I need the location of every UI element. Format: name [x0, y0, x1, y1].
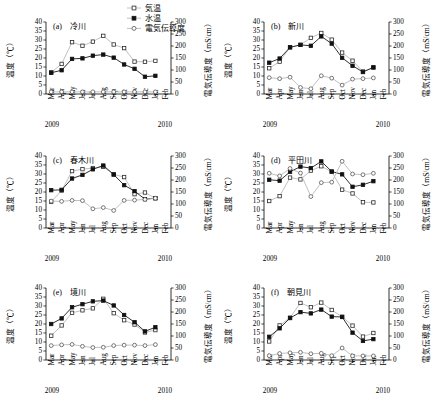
- data-point-water: [143, 330, 146, 333]
- data-point-air: [340, 51, 343, 54]
- data-point-air: [320, 31, 323, 34]
- y-tick-label-right: 50: [393, 78, 401, 86]
- data-point-water: [91, 300, 94, 303]
- data-point-water: [268, 335, 271, 338]
- data-point-air: [91, 307, 94, 310]
- y-tick-label-right: 300: [175, 152, 186, 160]
- y-tick-label-right: 200: [393, 176, 404, 184]
- x-tick-label: Feb: [162, 88, 170, 99]
- x-tick-label: Mar: [266, 87, 274, 100]
- x-tick-label: Oct: [121, 223, 129, 233]
- data-point-water: [278, 327, 281, 330]
- data-point-air: [330, 38, 333, 41]
- x-tick-label: Mar: [48, 353, 56, 366]
- data-point-ec: [299, 171, 303, 175]
- y-tick-label-right: 200: [175, 176, 186, 184]
- data-point-water: [133, 67, 136, 70]
- y-tick-label-left: 10: [35, 338, 43, 346]
- data-point-air: [81, 44, 84, 47]
- y-axis-label-right: 電気伝導度（mS/cm）: [421, 153, 431, 231]
- y-tick-label-right: 300: [393, 18, 404, 26]
- x-tick-label: Jun: [297, 355, 305, 365]
- data-point-ec: [133, 343, 137, 347]
- x-tick-label: Sep: [110, 354, 118, 365]
- series-line-open-square: [51, 299, 155, 336]
- x-year-right: 2010: [376, 121, 391, 129]
- x-tick-label: Jul: [307, 225, 315, 233]
- data-point-ec: [133, 198, 137, 202]
- data-point-ec: [70, 343, 74, 347]
- legend: 気温水温電気伝導度: [125, 2, 285, 36]
- y-tick-label-right: 200: [393, 308, 404, 316]
- y-tick-label-right: 0: [393, 356, 397, 364]
- data-point-ec: [351, 172, 355, 176]
- data-point-water: [154, 326, 157, 329]
- y-tick-label-right: 100: [175, 66, 186, 74]
- data-point-ec: [299, 86, 303, 90]
- y-tick-label-left: 5: [38, 347, 42, 355]
- y-tick-label-right: 50: [175, 212, 183, 220]
- data-point-water: [133, 321, 136, 324]
- y-tick-label-left: 20: [35, 320, 43, 328]
- y-tick-label-left: 25: [35, 179, 43, 187]
- data-point-ec: [319, 351, 323, 355]
- data-point-water: [351, 64, 354, 67]
- data-point-ec: [351, 77, 355, 81]
- data-point-air: [320, 165, 323, 168]
- y-axis-label-right: 電気伝導度（mS/cm）: [421, 19, 431, 97]
- data-point-water: [288, 316, 291, 319]
- data-point-water: [299, 310, 302, 313]
- data-point-ec: [340, 83, 344, 87]
- y-tick-label-right: 0: [175, 356, 179, 364]
- data-point-water: [91, 168, 94, 171]
- y-tick-label-left: 30: [35, 170, 43, 178]
- data-point-water: [372, 337, 375, 340]
- x-tick-label: Oct: [339, 223, 347, 233]
- x-tick-label: Feb: [380, 88, 388, 99]
- data-point-air: [340, 188, 343, 191]
- x-tick-label: Jan: [152, 356, 160, 366]
- data-point-air: [351, 324, 354, 327]
- y-tick-label-right: 0: [393, 90, 397, 98]
- data-point-air: [102, 34, 105, 37]
- legend-label-water: 水温: [145, 13, 161, 23]
- y-tick-label-left: 35: [253, 293, 261, 301]
- y-tick-label-left: 30: [35, 36, 43, 44]
- x-tick-label: Dec: [360, 88, 368, 100]
- data-point-water: [102, 53, 105, 56]
- data-point-water: [288, 46, 291, 49]
- y-tick-label-left: 20: [253, 54, 261, 62]
- legend-marker-air: [132, 6, 136, 10]
- data-point-ec: [278, 174, 282, 178]
- x-tick-label: Aug: [100, 221, 108, 234]
- data-point-air: [81, 167, 84, 170]
- data-point-air: [268, 340, 271, 343]
- data-point-water: [122, 183, 125, 186]
- y-axis-label-left: 温度（℃）: [223, 304, 233, 344]
- y-tick-label-left: 5: [38, 215, 42, 223]
- y-axis-label-right: 電気伝導度（mS/cm）: [203, 285, 213, 363]
- data-point-air: [122, 46, 125, 49]
- data-point-ec: [49, 344, 53, 348]
- y-tick-label-left: 20: [253, 320, 261, 328]
- data-point-water: [299, 165, 302, 168]
- data-point-ec: [49, 199, 53, 203]
- y-tick-label-left: 25: [253, 311, 261, 319]
- y-tick-label-right: 50: [175, 78, 183, 86]
- y-tick-label-left: 25: [35, 311, 43, 319]
- data-point-ec: [153, 196, 157, 200]
- data-point-ec: [330, 76, 334, 80]
- data-point-water: [351, 331, 354, 334]
- data-point-water: [112, 304, 115, 307]
- data-point-air: [309, 36, 312, 39]
- x-tick-label: Jun: [79, 223, 87, 233]
- y-tick-label-right: 250: [393, 30, 404, 38]
- data-point-air: [278, 194, 281, 197]
- x-year-left: 2009: [263, 121, 278, 129]
- data-point-water: [122, 63, 125, 66]
- y-tick-label-right: 150: [393, 188, 404, 196]
- data-point-water: [372, 180, 375, 183]
- y-tick-label-right: 50: [393, 344, 401, 352]
- x-tick-label: Aug: [318, 221, 326, 234]
- legend-marker-ec: [132, 26, 136, 30]
